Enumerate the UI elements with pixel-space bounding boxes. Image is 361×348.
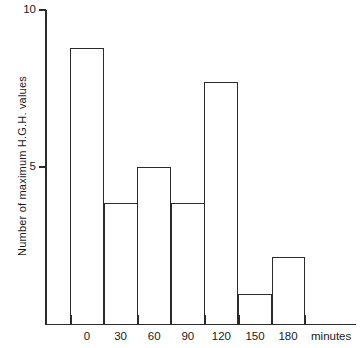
bar-0 xyxy=(70,48,104,324)
bar-60 xyxy=(137,167,171,324)
y-tick-label: 10 xyxy=(6,4,36,16)
bar-120 xyxy=(204,82,238,324)
bar-180 xyxy=(272,257,305,324)
y-tick-mark xyxy=(39,166,46,168)
bar-30 xyxy=(104,203,138,324)
x-tick-label-180: 180 xyxy=(268,331,308,343)
histogram-chart: Number of maximum H.G.H. values 5 10 0 3… xyxy=(0,0,361,348)
x-axis-units-label: minutes xyxy=(311,331,351,343)
x-tick-mark xyxy=(238,315,240,324)
x-tick-mark xyxy=(137,315,139,324)
x-tick-mark xyxy=(171,315,173,324)
bar-90 xyxy=(171,203,205,324)
y-tick-mark xyxy=(39,9,46,11)
x-tick-mark xyxy=(70,315,72,324)
x-tick-mark xyxy=(304,315,306,324)
x-tick-mark xyxy=(204,315,206,324)
bar-150 xyxy=(238,294,272,324)
x-tick-mark xyxy=(272,315,274,324)
x-tick-mark xyxy=(104,315,106,324)
y-tick-label: 5 xyxy=(6,161,36,173)
